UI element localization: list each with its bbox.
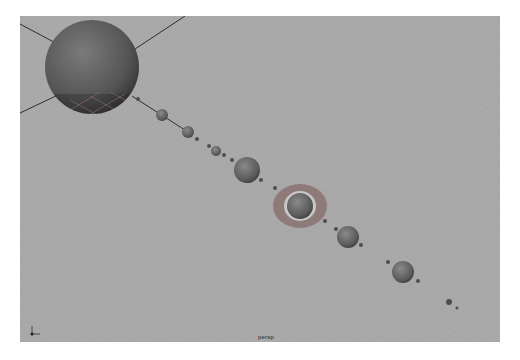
moon-sphere[interactable] — [446, 299, 452, 305]
moon-sphere[interactable] — [386, 260, 390, 264]
moon-sphere[interactable] — [136, 97, 140, 101]
3d-viewport[interactable]: persp — [20, 16, 500, 342]
planet-sphere[interactable] — [211, 146, 221, 156]
moon-sphere[interactable] — [323, 219, 327, 223]
planet-sphere[interactable] — [392, 261, 414, 283]
moon-sphere[interactable] — [416, 279, 420, 283]
planet-sphere[interactable] — [156, 109, 168, 121]
camera-label: persp — [258, 334, 274, 340]
moon-sphere[interactable] — [222, 153, 226, 157]
moon-sphere[interactable] — [195, 137, 199, 141]
moon-sphere[interactable] — [259, 178, 263, 182]
moon-sphere[interactable] — [273, 186, 277, 190]
moon-sphere[interactable] — [359, 243, 363, 247]
moon-sphere[interactable] — [230, 158, 234, 162]
moon-sphere[interactable] — [456, 307, 459, 310]
axis-gizmo — [28, 324, 44, 338]
moon-sphere[interactable] — [334, 227, 338, 231]
planet-sphere[interactable] — [287, 193, 313, 219]
moon-sphere[interactable] — [207, 144, 211, 148]
planet-sphere[interactable] — [182, 126, 194, 138]
solar-system-scene[interactable] — [20, 16, 500, 342]
planet-sphere[interactable] — [234, 157, 260, 183]
planet-sphere[interactable] — [337, 226, 359, 248]
